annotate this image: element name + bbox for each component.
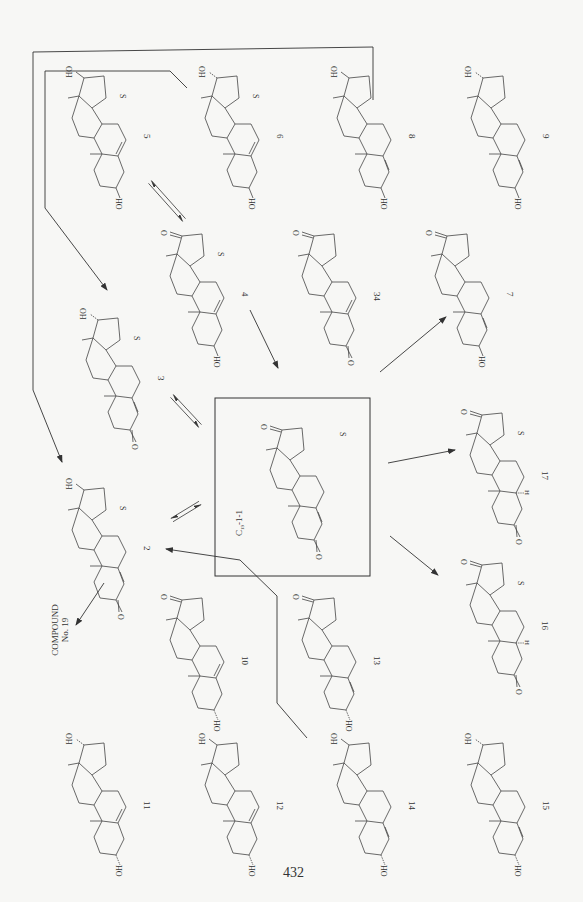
svg-text:O: O bbox=[514, 689, 523, 695]
molecule-16: OOHS16 bbox=[459, 559, 550, 695]
molecule-number: 14 bbox=[407, 801, 417, 811]
arrow-central-7 bbox=[380, 317, 446, 372]
svg-text:H: H bbox=[523, 640, 531, 645]
molecule-number: 3 bbox=[156, 376, 166, 381]
molecule-2: OHOS2 bbox=[64, 478, 152, 620]
arrow-central-16 bbox=[390, 536, 438, 575]
svg-text:OH: OH bbox=[78, 308, 87, 320]
arrow-2-compound19 bbox=[76, 583, 104, 625]
svg-text:O: O bbox=[259, 424, 268, 430]
arrow-central-2-equilibrium-forward bbox=[171, 501, 199, 518]
molecule-number: 12 bbox=[275, 801, 285, 810]
molecule-s-mark: S bbox=[516, 581, 525, 585]
compound-19-line2: No. 19 bbox=[60, 604, 70, 656]
molecule-central: OO bbox=[259, 424, 324, 560]
svg-text:HO: HO bbox=[513, 865, 522, 877]
compound-19-label: COMPOUND No. 19 bbox=[50, 604, 70, 656]
molecule-14: OHHO14 bbox=[329, 733, 417, 877]
arrow-5-6-equilibrium-reverse bbox=[151, 181, 185, 219]
arrow-3-central-equilibrium-reverse bbox=[173, 395, 201, 425]
svg-text:OH: OH bbox=[64, 478, 73, 490]
svg-text:C19-1-1: C19-1-1 bbox=[234, 510, 245, 536]
svg-text:HO: HO bbox=[513, 198, 522, 210]
svg-text:OH: OH bbox=[329, 733, 338, 745]
molecule-number: 2 bbox=[142, 546, 152, 551]
svg-text:O: O bbox=[459, 559, 468, 565]
molecule-number: 15 bbox=[541, 801, 551, 811]
svg-text:O: O bbox=[116, 614, 125, 620]
molecule-15: OHHO15 bbox=[463, 733, 551, 877]
molecule-number: 7 bbox=[505, 292, 515, 297]
molecule-10: OHO10 bbox=[159, 594, 250, 732]
svg-text:O: O bbox=[314, 554, 323, 560]
molecule-5: OHHOS5 bbox=[64, 66, 152, 210]
svg-text:HO: HO bbox=[477, 356, 486, 368]
arrow-3-central-equilibrium-forward bbox=[171, 397, 199, 427]
steroid-pathway-diagram: OHHOS5OHHOS6OHHO8OHHO9OHOS4OO34OHO7OHOS3… bbox=[0, 0, 583, 902]
central-compound-label: C19-1-1 bbox=[234, 510, 245, 536]
molecule-s-mark: S bbox=[118, 506, 127, 510]
central-compound-s-mark: S bbox=[338, 432, 347, 436]
page-number: 432 bbox=[283, 865, 304, 881]
svg-text:OH: OH bbox=[64, 733, 73, 745]
svg-text:O: O bbox=[291, 230, 300, 236]
molecule-s-mark: S bbox=[251, 94, 260, 98]
central-compound-frame bbox=[215, 398, 370, 576]
svg-text:HO: HO bbox=[114, 865, 123, 877]
svg-text:HO: HO bbox=[114, 198, 123, 210]
arrow-central-2-equilibrium-reverse bbox=[173, 505, 201, 522]
svg-text:OH: OH bbox=[197, 733, 206, 745]
molecule-34: OO34 bbox=[291, 230, 382, 366]
svg-text:OH: OH bbox=[197, 66, 206, 78]
molecule-layer: OHHOS5OHHOS6OHHO8OHHO9OHOS4OO34OHO7OHOS3… bbox=[64, 66, 551, 877]
molecule-9: OHHO9 bbox=[463, 66, 551, 210]
molecule-11: OHHO11 bbox=[64, 733, 152, 877]
molecule-17: OOHS17 bbox=[459, 409, 550, 545]
svg-text:H: H bbox=[523, 490, 531, 495]
molecule-12: OHHO12 bbox=[197, 733, 285, 877]
svg-text:O: O bbox=[159, 230, 168, 236]
molecule-7: OHO7 bbox=[424, 230, 515, 368]
arrow-14-2 bbox=[166, 549, 307, 738]
molecule-number: 5 bbox=[142, 134, 152, 139]
molecule-s-mark: S bbox=[216, 252, 225, 256]
svg-text:HO: HO bbox=[247, 865, 256, 877]
svg-text:O: O bbox=[459, 409, 468, 415]
molecule-6: OHHOS6 bbox=[197, 66, 285, 210]
molecule-4: OHOS4 bbox=[159, 230, 250, 368]
svg-text:HO: HO bbox=[212, 720, 221, 732]
molecule-number: 6 bbox=[275, 134, 285, 139]
svg-text:OH: OH bbox=[329, 66, 338, 78]
molecule-number: 13 bbox=[372, 656, 382, 666]
svg-text:OH: OH bbox=[463, 733, 472, 745]
svg-text:O: O bbox=[291, 594, 300, 600]
arrow-6-3 bbox=[45, 71, 187, 290]
molecule-3: OHOS3 bbox=[78, 308, 166, 450]
arrow-8-2 bbox=[33, 47, 373, 462]
svg-text:HO: HO bbox=[247, 198, 256, 210]
molecule-s-mark: S bbox=[118, 94, 127, 98]
arrow-5-6-equilibrium-forward bbox=[149, 183, 183, 221]
molecule-number: 10 bbox=[240, 656, 250, 666]
svg-text:O: O bbox=[424, 230, 433, 236]
molecule-number: 34 bbox=[372, 292, 382, 302]
compound-19-line1: COMPOUND bbox=[50, 604, 60, 656]
svg-text:O: O bbox=[130, 444, 139, 450]
svg-text:HO: HO bbox=[379, 865, 388, 877]
svg-text:O: O bbox=[346, 360, 355, 366]
svg-text:O: O bbox=[159, 594, 168, 600]
molecule-number: 11 bbox=[142, 801, 152, 810]
molecule-number: 4 bbox=[240, 292, 250, 297]
svg-text:O: O bbox=[514, 539, 523, 545]
svg-text:OH: OH bbox=[463, 66, 472, 78]
molecule-13: OHO13 bbox=[291, 594, 382, 732]
molecule-number: 17 bbox=[540, 471, 550, 481]
molecule-number: 16 bbox=[540, 621, 550, 631]
arrow-4-central bbox=[250, 310, 278, 368]
molecule-number: 8 bbox=[407, 134, 417, 139]
molecule-s-mark: S bbox=[132, 336, 141, 340]
svg-text:HO: HO bbox=[212, 356, 221, 368]
molecule-number: 9 bbox=[541, 134, 551, 139]
arrow-central-17 bbox=[388, 450, 455, 463]
svg-text:HO: HO bbox=[379, 198, 388, 210]
